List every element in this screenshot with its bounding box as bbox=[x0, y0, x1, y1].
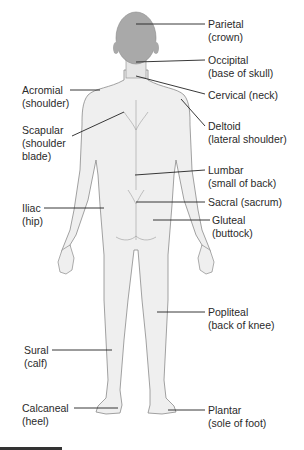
label-term: Iliac bbox=[22, 202, 43, 215]
label-common: (base of skull) bbox=[208, 67, 273, 80]
label-common: (calf) bbox=[24, 357, 49, 370]
label-common: (back of knee) bbox=[208, 319, 275, 332]
label-common: (buttock) bbox=[212, 227, 253, 240]
label-term: Sacral (sacrum) bbox=[208, 196, 282, 209]
label-term: Popliteal bbox=[208, 306, 275, 319]
label-scapular: Scapular (shoulder blade) bbox=[22, 124, 66, 163]
label-plantar: Plantar (sole of foot) bbox=[208, 404, 266, 430]
label-common: (crown) bbox=[208, 31, 244, 44]
label-common: (sole of foot) bbox=[208, 417, 266, 430]
label-term: Parietal bbox=[208, 18, 244, 31]
label-cervical: Cervical (neck) bbox=[208, 89, 278, 102]
anatomy-diagram: Parietal (crown) Occipital (base of skul… bbox=[0, 0, 304, 450]
label-term: Deltoid bbox=[208, 120, 287, 133]
label-sural: Sural (calf) bbox=[24, 344, 49, 370]
label-term: Calcaneal bbox=[22, 402, 69, 415]
label-common: (hip) bbox=[22, 215, 43, 228]
label-popliteal: Popliteal (back of knee) bbox=[208, 306, 275, 332]
label-common-continued: blade) bbox=[22, 150, 66, 163]
label-deltoid: Deltoid (lateral shoulder) bbox=[208, 120, 287, 146]
head bbox=[113, 12, 159, 78]
label-term: Sural bbox=[24, 344, 49, 357]
label-iliac: Iliac (hip) bbox=[22, 202, 43, 228]
label-sacral: Sacral (sacrum) bbox=[208, 196, 282, 209]
label-common: (heel) bbox=[22, 415, 69, 428]
label-term: Scapular bbox=[22, 124, 66, 137]
label-acromial: Acromial (shoulder) bbox=[22, 84, 69, 110]
label-common: (shoulder bbox=[22, 137, 66, 150]
label-term: Lumbar bbox=[208, 164, 276, 177]
label-gluteal: Gluteal (buttock) bbox=[212, 214, 253, 240]
label-common: (shoulder) bbox=[22, 97, 69, 110]
label-term: Gluteal bbox=[212, 214, 253, 227]
label-term: Plantar bbox=[208, 404, 266, 417]
label-common: (lateral shoulder) bbox=[208, 133, 287, 146]
label-term: Cervical (neck) bbox=[208, 89, 278, 102]
label-lumbar: Lumbar (small of back) bbox=[208, 164, 276, 190]
label-term: Occipital bbox=[208, 54, 273, 67]
label-calcaneal: Calcaneal (heel) bbox=[22, 402, 69, 428]
label-occipital: Occipital (base of skull) bbox=[208, 54, 273, 80]
label-parietal: Parietal (crown) bbox=[208, 18, 244, 44]
label-common: (small of back) bbox=[208, 177, 276, 190]
label-term: Acromial bbox=[22, 84, 69, 97]
